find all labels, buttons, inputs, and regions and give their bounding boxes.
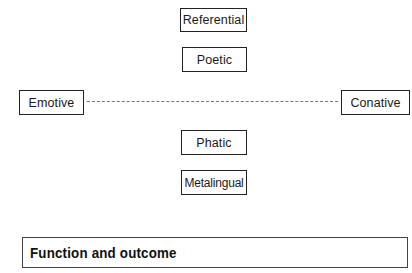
poetic-node: Poetic (182, 47, 247, 72)
poetic-label: Poetic (197, 53, 232, 67)
section-heading-box: Function and outcome (22, 237, 408, 268)
conative-node: Conative (341, 90, 410, 115)
emotive-conative-dashed-connector (87, 101, 338, 102)
referential-node: Referential (180, 8, 247, 32)
emotive-node: Emotive (19, 90, 84, 115)
emotive-label: Emotive (29, 96, 75, 110)
phatic-node: Phatic (181, 130, 247, 155)
phatic-label: Phatic (196, 136, 231, 150)
metalingual-label: Metalingual (184, 176, 243, 190)
section-heading: Function and outcome (30, 245, 177, 261)
metalingual-node: Metalingual (181, 170, 247, 195)
conative-label: Conative (350, 96, 400, 110)
referential-label: Referential (183, 13, 245, 27)
